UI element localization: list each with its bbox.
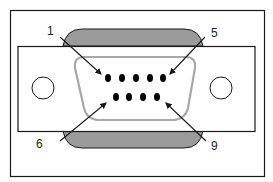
pin-1 (105, 74, 111, 82)
label-pin-1: 1 (47, 24, 54, 38)
db9-connector-diagram: 1 5 6 9 (0, 0, 273, 182)
pin-4 (147, 74, 153, 82)
pin-2 (119, 74, 125, 82)
pin-3 (133, 74, 139, 82)
mounting-hole-right (210, 77, 232, 99)
bottom-shell (63, 131, 203, 148)
pin-5 (160, 74, 166, 82)
label-pin-6: 6 (36, 137, 43, 151)
label-pin-5: 5 (211, 26, 218, 40)
mounting-hole-left (32, 77, 54, 99)
pin-9 (154, 93, 160, 101)
top-shell (63, 29, 203, 46)
pin-8 (140, 93, 146, 101)
pin-7 (126, 93, 132, 101)
label-pin-9: 9 (211, 139, 218, 153)
pin-6 (113, 93, 119, 101)
